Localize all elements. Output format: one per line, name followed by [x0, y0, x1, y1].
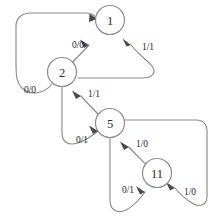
edge-label-1-0-from-11: 1/0	[184, 187, 196, 197]
edge-label-0-1-from-2: 0/1	[76, 135, 88, 145]
state-transition-diagram: 0/0 1/1 0/0 1/1 0/1 1/0 1/0 0/1 1 2 5 11	[0, 0, 218, 223]
edge-label-0-1-from-11: 0/1	[122, 185, 134, 195]
arrowhead-from-node-1-right	[123, 39, 132, 47]
state-node-11-label: 11	[151, 167, 163, 181]
state-node-2[interactable]: 2	[48, 58, 77, 87]
state-node-11[interactable]: 11	[143, 159, 172, 188]
edge-label-0-0-from-2: 0/0	[24, 85, 36, 95]
state-node-5-label: 5	[107, 117, 113, 131]
edge-label-1-0-from-5: 1/0	[136, 139, 148, 149]
edge-label-1-1-from-1: 1/1	[142, 42, 154, 52]
state-node-1[interactable]: 1	[96, 6, 125, 35]
arrowhead-from-node-2-right	[72, 91, 81, 100]
state-node-1-label: 1	[107, 14, 113, 28]
edge-path-5-to-11-bottom	[110, 138, 145, 212]
edge-label-0-0-from-1: 0/0	[72, 40, 84, 50]
edge-5-to-11-bottom-loop	[110, 138, 145, 212]
state-node-2-label: 2	[59, 66, 65, 80]
arrowhead-from-node-5-right	[120, 142, 129, 151]
edge-label-1-1-from-2: 1/1	[88, 89, 100, 99]
state-node-5[interactable]: 5	[96, 109, 125, 138]
